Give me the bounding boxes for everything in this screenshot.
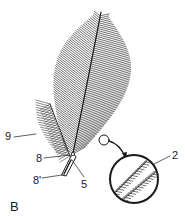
superior-umbilicus	[71, 152, 74, 155]
leader-8prime	[42, 175, 62, 178]
magnifier-small-circle	[99, 135, 109, 145]
feather-illustration	[0, 0, 185, 216]
magnifier-connector	[109, 141, 125, 157]
leader-2	[154, 156, 170, 164]
panel-letter: B	[10, 200, 19, 213]
leader-5	[72, 160, 84, 177]
feather-diagram: 9 8 8' 5 2 B	[0, 0, 185, 216]
label-9: 9	[5, 131, 11, 142]
vane-barbs	[54, 11, 131, 153]
label-8: 8	[36, 153, 42, 164]
leader-8	[44, 155, 70, 158]
label-2: 2	[172, 150, 178, 161]
leader-9	[14, 134, 36, 137]
label-8-prime: 8'	[33, 175, 41, 186]
label-5: 5	[81, 179, 87, 190]
